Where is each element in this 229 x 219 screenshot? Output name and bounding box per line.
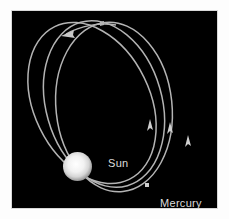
orbit-path-2 (25, 11, 183, 202)
orbit-path-1 (12, 11, 181, 205)
orbit-arrow-inner-icon (147, 119, 153, 131)
sun-label: Sun (108, 157, 128, 169)
diagram-panel: Sun Mercury (11, 10, 218, 209)
mercury-body-icon (145, 183, 149, 187)
mercury-label: Mercury (160, 197, 202, 209)
sun-body-icon (63, 152, 92, 181)
orbit-diagram-svg (12, 11, 217, 208)
orbit-precession-figure: Sun Mercury (0, 0, 229, 219)
orbit-arrow-outer-icon (185, 135, 191, 147)
precession-arrow-top-icon (61, 30, 75, 38)
